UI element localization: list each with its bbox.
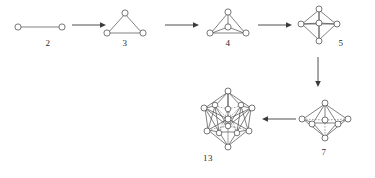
cluster-13-centered-icosahedron — [195, 86, 261, 154]
arrow-4-to-5 — [258, 21, 292, 29]
cluster-3-label: 3 — [118, 38, 132, 48]
cluster-2-dimer — [12, 18, 68, 36]
figure-canvas: 2 3 4 — [0, 0, 375, 178]
cluster-7-pentagonal-bipyramid — [298, 99, 352, 143]
arrow-down-icon — [314, 57, 322, 87]
arrow-7-to-13 — [262, 115, 296, 123]
cluster-4-graphic — [203, 7, 253, 39]
cluster-3-triangle — [100, 7, 150, 39]
arrow-left-icon — [262, 115, 296, 123]
arrow-right-icon — [72, 21, 106, 29]
arrow-3-to-4 — [165, 21, 199, 29]
cluster-13-graphic — [195, 86, 261, 154]
arrow-right-icon — [165, 21, 199, 29]
arrow-2-to-3 — [72, 21, 106, 29]
cluster-3-graphic — [100, 7, 150, 39]
arrow-right-icon — [258, 21, 292, 29]
cluster-13-label: 13 — [199, 153, 217, 163]
cluster-4-label: 4 — [221, 38, 235, 48]
arrow-5-to-7 — [314, 57, 322, 87]
cluster-2-label: 2 — [41, 38, 55, 48]
cluster-7-graphic — [298, 99, 352, 143]
cluster-5-label: 5 — [334, 38, 348, 48]
cluster-2-graphic — [12, 18, 68, 36]
cluster-4-tetrahedron — [203, 7, 253, 39]
cluster-7-label: 7 — [317, 147, 331, 157]
